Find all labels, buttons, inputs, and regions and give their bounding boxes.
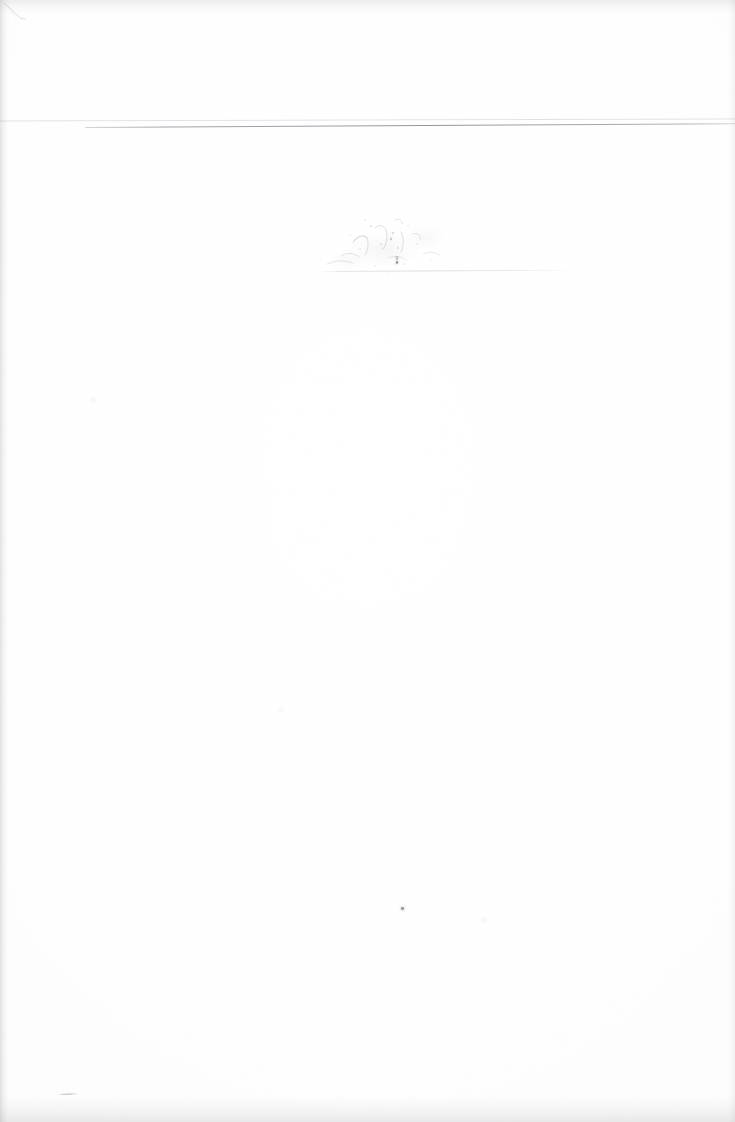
ink-speck-lower bbox=[401, 907, 404, 910]
faint-blot-a bbox=[479, 916, 488, 923]
corner-curl-mark bbox=[3, 2, 29, 22]
top-edge-shadow bbox=[0, 0, 735, 14]
scanned-page: No legible text is present on this page. bbox=[0, 0, 735, 1122]
bottom-edge-shadow bbox=[0, 1096, 735, 1122]
faint-blot-b bbox=[88, 396, 99, 404]
faint-blot-c bbox=[276, 706, 286, 714]
right-edge-shadow bbox=[728, 0, 735, 1122]
left-edge-shadow bbox=[0, 0, 9, 1122]
paper-grain-texture bbox=[0, 0, 735, 1122]
smudge-cluster bbox=[305, 208, 475, 290]
